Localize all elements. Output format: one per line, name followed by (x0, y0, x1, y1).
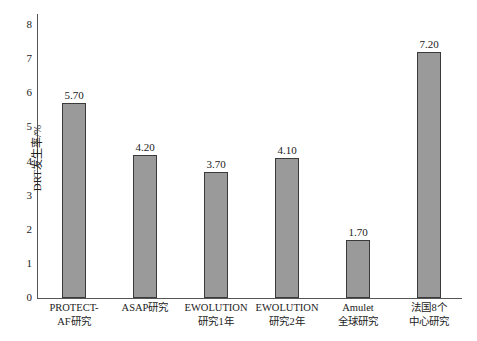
bar-chart: DRT发生率/% 012345678 5.70PROTECT-AF研究4.20A… (0, 0, 477, 341)
x-axis-line (37, 298, 462, 299)
bar-value-label: 1.70 (333, 226, 383, 238)
x-category-label: Amulet全球研究 (318, 301, 398, 329)
y-tick-label: 3 (18, 189, 32, 201)
x-category-label: PROTECT-AF研究 (34, 301, 114, 329)
bar-value-label: 3.70 (191, 158, 241, 170)
bar (133, 155, 157, 298)
y-tick-label: 4 (18, 155, 32, 167)
y-tick-label: 2 (18, 223, 32, 235)
bar-value-label: 5.70 (49, 89, 99, 101)
bar-value-label: 7.20 (404, 38, 454, 50)
bar-value-label: 4.10 (262, 144, 312, 156)
y-tick-label: 8 (18, 18, 32, 30)
bar (346, 240, 370, 298)
y-tick-label: 6 (18, 86, 32, 98)
bar (204, 172, 228, 298)
x-category-label: EWOLUTION研究1年 (176, 301, 256, 329)
y-tick-label: 0 (18, 291, 32, 303)
bar (62, 103, 86, 298)
x-category-label: 法国8个中心研究 (389, 301, 469, 329)
bar-value-label: 4.20 (120, 141, 170, 153)
y-tick-label: 5 (18, 120, 32, 132)
x-category-label: EWOLUTION研究2年 (247, 301, 327, 329)
y-tick-label: 7 (18, 52, 32, 64)
y-tick-label: 1 (18, 257, 32, 269)
bar (275, 158, 299, 298)
x-category-label: ASAP研究 (105, 301, 185, 315)
bar (417, 52, 441, 298)
